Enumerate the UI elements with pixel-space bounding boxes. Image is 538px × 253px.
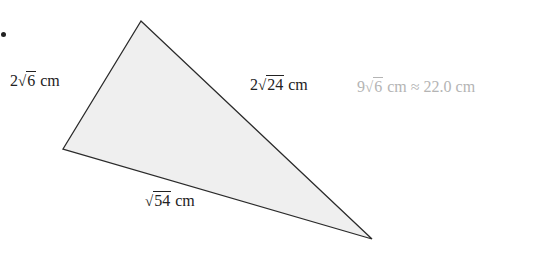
radicand: 6 [373, 77, 383, 95]
side-label-bottom: √54 cm [145, 192, 195, 210]
triangle-shape [63, 21, 372, 239]
radical-icon: √ [258, 77, 266, 93]
approx-value: 22.0 cm [424, 78, 476, 95]
triangle-figure [0, 0, 538, 253]
sqrt-expression: √6 [18, 72, 36, 90]
radical-icon: √ [18, 73, 26, 89]
unit: cm [40, 72, 60, 89]
unit: cm [288, 76, 308, 93]
radical-icon: √ [365, 79, 373, 95]
side-label-left: 2√6 cm [10, 72, 60, 90]
radicand: 24 [266, 75, 284, 93]
radical-icon: √ [145, 193, 153, 209]
approx-sign: ≈ [411, 78, 420, 95]
radicand: 54 [153, 191, 171, 209]
sqrt-expression: √54 [145, 192, 171, 210]
radicand: 6 [26, 71, 36, 89]
coef: 2 [10, 72, 18, 89]
perimeter-answer: 9√6 cm ≈ 22.0 cm [357, 78, 475, 96]
side-label-right: 2√24 cm [250, 76, 308, 94]
coef: 9 [357, 78, 365, 95]
unit: cm [175, 192, 195, 209]
sqrt-expression: √24 [258, 76, 284, 94]
coef: 2 [250, 76, 258, 93]
unit: cm [387, 78, 407, 95]
sqrt-expression: √6 [365, 78, 383, 96]
